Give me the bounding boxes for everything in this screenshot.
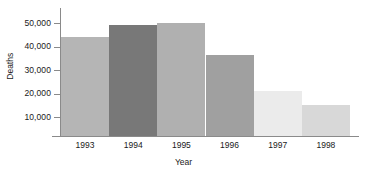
- bar-1994: [109, 25, 157, 136]
- x-axis-line: [52, 136, 359, 137]
- x-axis-tick-label-1993: 1993: [65, 141, 105, 150]
- x-axis-tick-label-1994: 1994: [113, 141, 153, 150]
- y-axis-tick-label: 40,000: [24, 42, 51, 51]
- x-axis-tick-label-1997: 1997: [258, 141, 298, 150]
- x-axis-title: Year: [0, 158, 367, 167]
- y-axis-tick-label: 50,000: [24, 19, 51, 28]
- bar-1997: [254, 91, 302, 136]
- x-axis-tick-label-1995: 1995: [161, 141, 201, 150]
- bar-1993: [61, 37, 109, 136]
- plot-area: [61, 8, 350, 136]
- bar-1996: [206, 55, 254, 136]
- y-axis-tick-mark: [54, 117, 60, 118]
- y-axis-tick-mark: [54, 47, 60, 48]
- y-axis-tick-label: 30,000: [24, 66, 51, 75]
- bar-1995: [157, 23, 205, 136]
- y-axis-tick-mark: [54, 94, 60, 95]
- x-axis-tick-label-1996: 1996: [210, 141, 250, 150]
- y-axis-tick-mark: [54, 70, 60, 71]
- y-axis-tick-label: 20,000: [24, 89, 51, 98]
- bar-1998: [302, 105, 350, 136]
- bar-chart-figure: 50,00040,00030,00020,00010,000 199319941…: [0, 0, 367, 180]
- x-axis-tick-label-1998: 1998: [306, 141, 346, 150]
- y-axis-tick-mark: [54, 23, 60, 24]
- y-axis-tick-label: 10,000: [24, 113, 51, 122]
- y-axis-title: Deaths: [6, 44, 15, 88]
